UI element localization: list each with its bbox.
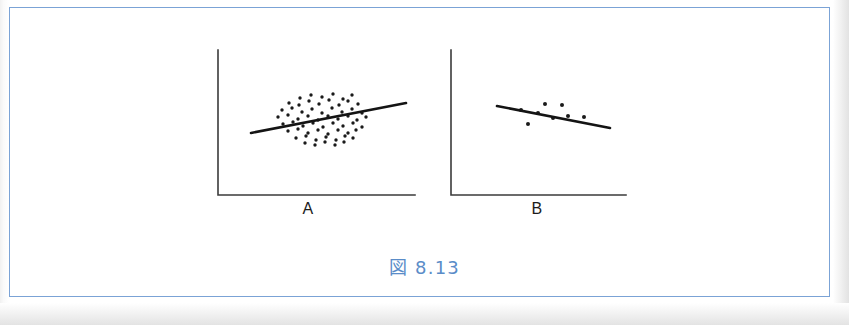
panel-label-a: A (288, 200, 328, 218)
figure-caption: 図 8.13 (0, 253, 849, 279)
axis-b (451, 50, 626, 195)
data-point (560, 103, 564, 107)
data-point (526, 122, 530, 126)
data-point (582, 115, 586, 119)
scatter-plot-b-svg (0, 0, 849, 240)
panel-label-b: B (517, 200, 557, 218)
trend-line-b (497, 106, 610, 128)
data-point (543, 102, 547, 106)
data-point (566, 114, 570, 118)
scatter-panel-b (0, 0, 849, 240)
figure-page: A B 図 8.13 (0, 0, 849, 325)
